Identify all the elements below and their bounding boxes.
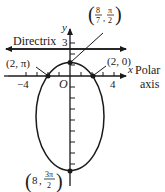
svg-text:8: 8 xyxy=(96,6,100,15)
label-bottom-vertex: ( 8 , 3π 2 ) xyxy=(25,170,63,192)
point-bottom-vertex xyxy=(68,169,73,174)
label-right-intercept: (2, 0) xyxy=(107,55,131,68)
svg-text:7: 7 xyxy=(96,16,100,25)
polar-axis-label-line2: axis xyxy=(140,77,160,91)
y-axis-label: y xyxy=(61,21,67,33)
directrix-label: Directrix xyxy=(13,34,56,48)
svg-text:,: , xyxy=(103,13,105,23)
svg-text:): ) xyxy=(56,170,63,192)
label-left-intercept: (2, π) xyxy=(6,57,30,70)
svg-text:): ) xyxy=(115,3,122,26)
svg-text:2: 2 xyxy=(47,181,51,190)
x-tick-label-4: 4 xyxy=(110,78,116,90)
y-axis xyxy=(70,29,75,186)
origin-label: O xyxy=(59,77,68,91)
polar-ellipse-diagram: Directrix 3 y x O −4 4 Polar axis (2, π)… xyxy=(0,0,165,192)
svg-text:π: π xyxy=(108,6,112,15)
svg-text:2: 2 xyxy=(108,16,112,25)
x-tick-label-neg4: −4 xyxy=(17,78,29,90)
y-tick-label-3: 3 xyxy=(62,36,68,48)
label-top-vertex: ( 8 7 , π 2 ) xyxy=(88,3,122,26)
x-axis xyxy=(4,72,126,76)
leader-left-intercept xyxy=(36,67,47,75)
leader-right-intercept xyxy=(94,66,106,75)
polar-axis-label: Polar xyxy=(135,63,160,77)
svg-text:(: ( xyxy=(88,3,95,26)
svg-text:3π: 3π xyxy=(45,170,53,179)
leader-top-vertex xyxy=(71,33,103,62)
svg-text:(: ( xyxy=(25,170,32,192)
svg-text:,: , xyxy=(39,174,42,186)
svg-text:8: 8 xyxy=(32,174,38,186)
